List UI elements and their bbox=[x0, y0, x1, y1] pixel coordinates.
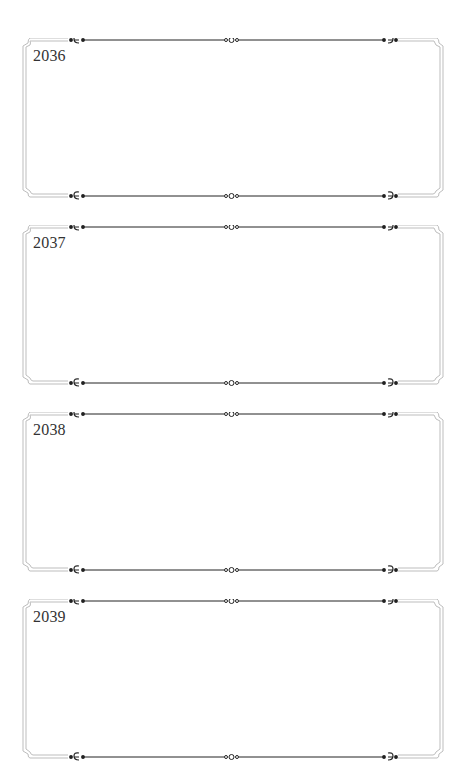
year-label: 2038 bbox=[33, 421, 66, 439]
year-frame: 2039 bbox=[0, 599, 462, 769]
year-frame: 2037 bbox=[0, 225, 462, 395]
decorative-border-icon bbox=[0, 225, 462, 395]
decorative-border-icon bbox=[0, 599, 462, 769]
year-label: 2039 bbox=[33, 608, 66, 626]
year-label: 2037 bbox=[33, 234, 66, 252]
year-frame: 2036 bbox=[0, 38, 462, 208]
year-frame: 2038 bbox=[0, 412, 462, 582]
decorative-border-icon bbox=[0, 38, 462, 208]
year-label: 2036 bbox=[33, 47, 66, 65]
decorative-border-icon bbox=[0, 412, 462, 582]
